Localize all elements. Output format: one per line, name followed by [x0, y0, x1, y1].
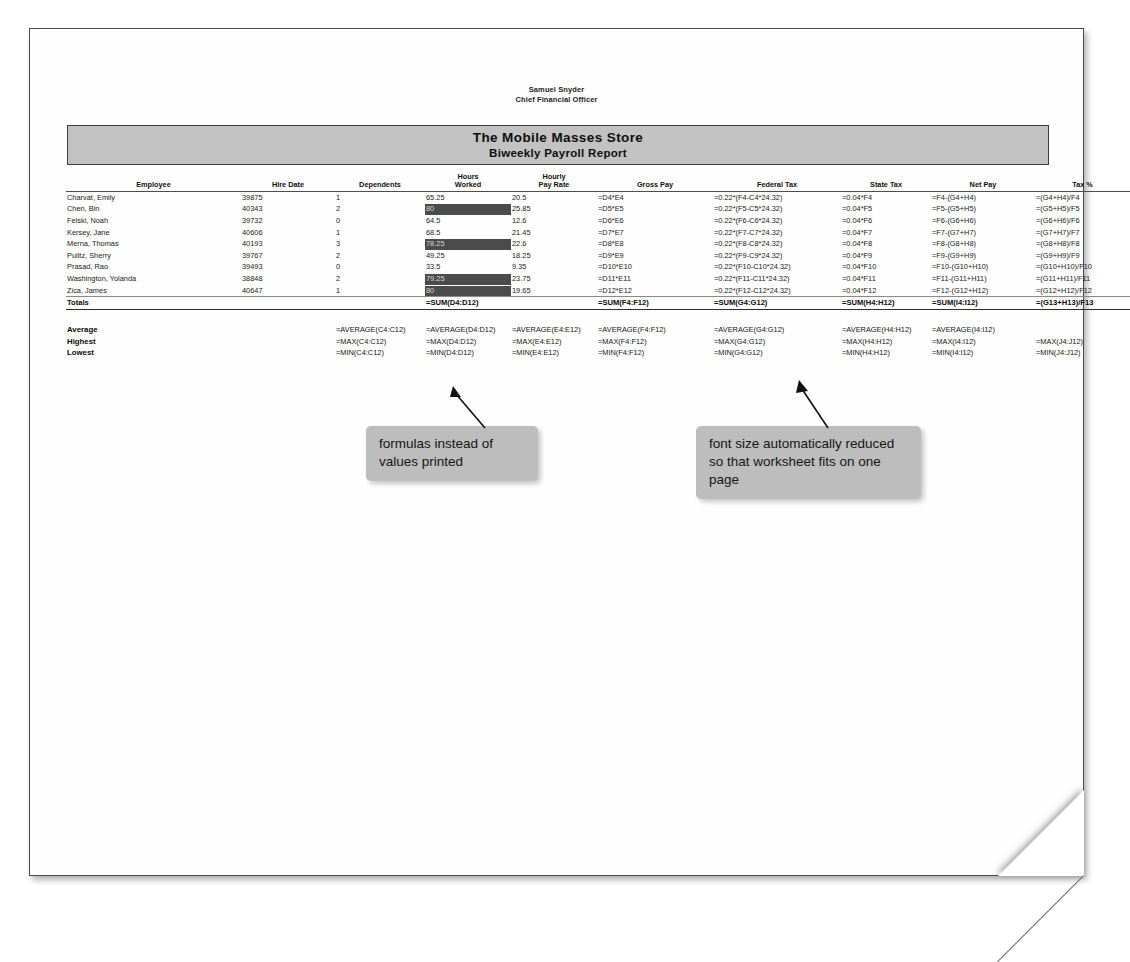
cell-state-tax-value: =0.04*F12 [841, 285, 931, 297]
cell-tax-pct-value: =(G5+H5)/F5 [1035, 203, 1130, 215]
cell-gross-pay-value: =D11*E11 [597, 273, 713, 285]
cell-state-tax: =0.04*F10 [841, 261, 931, 273]
cell-state-tax-value: =0.04*F4 [841, 192, 931, 204]
cell-tax-pct: =(G8+H8)/F8 [1035, 238, 1130, 250]
cell-federal-tax: =0.22*(F6-C6*24.32) [713, 215, 841, 227]
cell-state-tax: =0.04*F8 [841, 238, 931, 250]
report-subtitle: Biweekly Payroll Report [489, 146, 627, 160]
cell-state-tax: =0.04*F12 [841, 285, 931, 297]
totals-federal-tax: =SUM(G4:G12) [713, 297, 841, 310]
stat-net-pay-value: =AVERAGE(I4:I12) [931, 324, 1035, 336]
cell-tax-pct: =(G9+H9)/F9 [1035, 250, 1130, 262]
cell-employee: Zica, James [66, 285, 241, 297]
cell-dependents-value: 1 [335, 227, 425, 239]
report-title: The Mobile Masses Store [473, 130, 644, 146]
cell-hourly-rate-value: 23.75 [511, 273, 597, 285]
cell-gross-pay-value: =D4*E4 [597, 192, 713, 204]
cell-hire-date: 40606 [241, 227, 335, 239]
cell-employee: Chen, Bin [66, 203, 241, 215]
officer-title: Chief Financial Officer [30, 95, 1083, 105]
stat-dependents: =MAX(C4:C12) [335, 336, 425, 348]
totals-label-value: Totals [66, 297, 241, 309]
cell-tax-pct: =(G12+H12)/F12 [1035, 285, 1130, 297]
col-header-hire-date: Hire Date [241, 173, 335, 191]
table-body: Charvat, Emily39875165.2520.5=D4*E4=0.22… [66, 191, 1130, 359]
totals-dependents [335, 297, 425, 310]
stat-hourly-rate: =AVERAGE(E4:E12) [511, 324, 597, 336]
cell-hire-date: 39732 [241, 215, 335, 227]
cell-gross-pay: =D12*E12 [597, 285, 713, 297]
cell-federal-tax: =0.22*(F5-C5*24.32) [713, 203, 841, 215]
col-header-rate-line2: Pay Rate [539, 180, 570, 189]
stat-hourly-rate: =MAX(E4:E12) [511, 336, 597, 348]
cell-gross-pay-value: =D7*E7 [597, 227, 713, 239]
cell-net-pay-value: =F11-(G11+H11) [931, 273, 1035, 285]
callout-fontsize-note: font size automatically reduced so that … [696, 426, 921, 499]
printed-page: Samuel Snyder Chief Financial Officer Th… [29, 28, 1084, 876]
stat-gross-pay: =MAX(F4:F12) [597, 336, 713, 348]
cell-state-tax-value: =0.04*F9 [841, 250, 931, 262]
cell-gross-pay: =D7*E7 [597, 227, 713, 239]
cell-dependents: 0 [335, 215, 425, 227]
totals-tax-pct: =(G13+H13)/F13 [1035, 297, 1130, 310]
cell-hire-date: 39493 [241, 261, 335, 273]
col-header-state-tax: State Tax [841, 173, 931, 191]
stat-label: Average [66, 324, 241, 336]
cell-net-pay: =F5-(G5+H5) [931, 203, 1035, 215]
cell-state-tax: =0.04*F4 [841, 191, 931, 203]
cell-hire-date-value: 40606 [241, 227, 335, 239]
cell-hours-worked: 64.5 [425, 215, 511, 227]
cell-hourly-rate: 25.85 [511, 203, 597, 215]
cell-employee: Pulitz, Sherry [66, 250, 241, 262]
cell-hours-worked-value: 33.5 [425, 261, 511, 273]
stat-state-tax-value: =MIN(H4:H12) [841, 347, 931, 359]
table-row: Kersey, Jane40606168.521.45=D7*E7=0.22*(… [66, 227, 1130, 239]
stat-state-tax: =AVERAGE(H4:H12) [841, 324, 931, 336]
cell-gross-pay-value: =D12*E12 [597, 285, 713, 297]
cell-hire-date: 40647 [241, 285, 335, 297]
cell-hours-worked: 80 [425, 203, 511, 215]
totals-gross-pay: =SUM(F4:F12) [597, 297, 713, 310]
table-row: Zica, James4064718019.65=D12*E12=0.22*(F… [66, 285, 1130, 297]
stat-federal-tax: =MAX(G4:G12) [713, 336, 841, 348]
stat-tax-pct: =MAX(J4:J12) [1035, 336, 1130, 348]
cell-federal-tax: =0.22*(F9-C9*24.32) [713, 250, 841, 262]
cell-dependents: 2 [335, 250, 425, 262]
stat-net-pay-value: =MAX(I4:I12) [931, 336, 1035, 348]
stat-dependents-value: =MAX(C4:C12) [335, 336, 425, 348]
stat-label-value: Average [66, 324, 241, 336]
stat-label: Highest [66, 336, 241, 348]
table-spacer-row [66, 310, 1130, 325]
cell-dependents-value: 1 [335, 285, 425, 297]
table-row: Pulitz, Sherry39767249.2518.25=D9*E9=0.2… [66, 250, 1130, 262]
cell-hours-worked: 78.25 [425, 238, 511, 250]
cell-tax-pct: =(G4+H4)/F4 [1035, 191, 1130, 203]
col-header-gross-pay: Gross Pay [597, 173, 713, 191]
table-row: Charvat, Emily39875165.2520.5=D4*E4=0.22… [66, 191, 1130, 203]
stat-label-value: Highest [66, 336, 241, 348]
cell-hourly-rate-value: 21.45 [511, 227, 597, 239]
cell-hourly-rate-value: 12.6 [511, 215, 597, 227]
cell-hourly-rate-value: 18.25 [511, 250, 597, 262]
cell-state-tax-value: =0.04*F11 [841, 273, 931, 285]
cell-hire-date: 39875 [241, 191, 335, 203]
stat-tax-pct-value: =MIN(J4:J12) [1035, 347, 1130, 359]
cell-hire-date-value: 39493 [241, 261, 335, 273]
cell-tax-pct: =(G11+H11)/F11 [1035, 273, 1130, 285]
stat-federal-tax-value: =AVERAGE(G4:G12) [713, 324, 841, 336]
cell-hire-date-value: 40193 [241, 238, 335, 250]
cell-employee-value: Zica, James [66, 285, 241, 297]
cell-dependents-value: 0 [335, 215, 425, 227]
stat-state-tax-value: =AVERAGE(H4:H12) [841, 324, 931, 336]
cell-hourly-rate-value: 22.6 [511, 238, 597, 250]
cell-employee-value: Chen, Bin [66, 203, 241, 215]
stat-dependents-value: =MIN(C4:C12) [335, 347, 425, 359]
cell-hire-date: 40193 [241, 238, 335, 250]
cell-hire-date-value: 39767 [241, 250, 335, 262]
cell-hourly-rate: 23.75 [511, 273, 597, 285]
cell-employee: Kersey, Jane [66, 227, 241, 239]
cell-net-pay: =F10-(G10+H10) [931, 261, 1035, 273]
cell-net-pay: =F12-(G12+H12) [931, 285, 1035, 297]
stat-state-tax: =MIN(H4:H12) [841, 347, 931, 359]
col-header-federal-tax: Federal Tax [713, 173, 841, 191]
